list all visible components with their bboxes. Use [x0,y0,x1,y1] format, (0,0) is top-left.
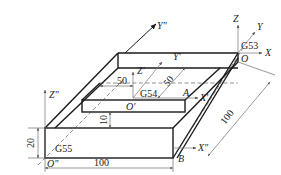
dim-length-label: 100 [94,157,109,168]
y2-axis-label: Y" [157,20,168,31]
z-axis-label: Z [233,13,239,24]
g54-label: G54 [140,88,157,99]
y2-axis [125,24,156,53]
z-double-prime-label: Z" [49,89,60,100]
origin-o-double-prime-label: O" [47,158,59,169]
origin-o-prime-label: O' [126,101,136,112]
y-prime-label: Y' [173,51,182,62]
dim-height-label: 20 [25,138,36,148]
g55-label: G55 [55,143,72,154]
point-b-label: B [178,153,184,164]
x-prime-label: X' [199,92,209,103]
x-axis-label: X [264,47,272,58]
g53-label: G53 [241,40,258,51]
dim-offset-x-label: 50 [117,75,127,86]
dim-step-height-label: 10 [98,115,109,125]
dim-depth-label: 100 [218,108,236,127]
point-a-label: A [182,87,190,98]
x-double-prime-label: X" [197,142,209,153]
coordinate-system-diagram: Z Y X G53 O Y" Z' Y' X' G54 O' A 50 50 1… [0,0,281,175]
origin-o-label: O [241,53,248,64]
z-prime-label: Z' [137,65,146,76]
dim-offset-y-label: 50 [161,74,176,89]
y-axis-label: Y [257,21,264,32]
